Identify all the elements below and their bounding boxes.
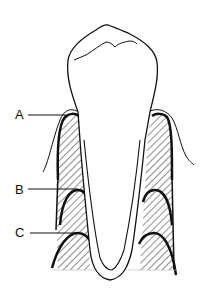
tooth-diagram bbox=[0, 0, 200, 290]
label-B: B bbox=[15, 183, 24, 196]
label-C: C bbox=[15, 226, 24, 239]
label-A: A bbox=[15, 108, 24, 121]
